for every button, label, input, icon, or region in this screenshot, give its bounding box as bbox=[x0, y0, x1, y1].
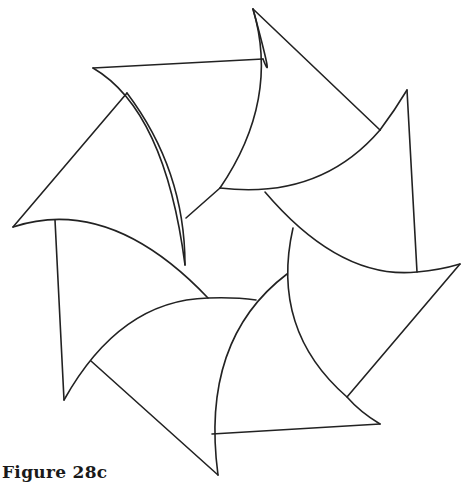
sail-shape-top-left bbox=[93, 59, 263, 265]
sail-shape-top-right bbox=[265, 90, 460, 273]
sail-shape-right bbox=[288, 228, 460, 424]
sail-shape-bottom-left bbox=[64, 298, 256, 475]
sail-shape-top bbox=[220, 9, 380, 190]
sail-shape-bottom bbox=[212, 274, 380, 475]
figure-caption: Figure 28c bbox=[2, 462, 107, 482]
sail-shape-left bbox=[13, 93, 220, 400]
